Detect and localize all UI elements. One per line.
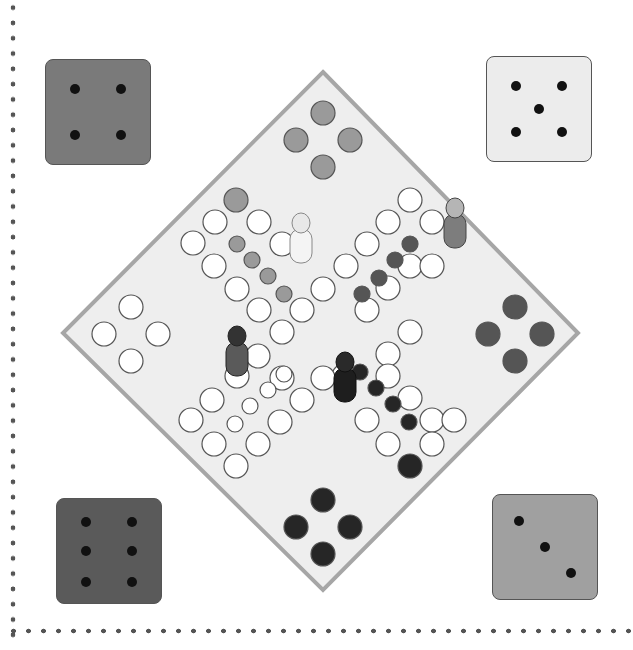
track-space[interactable]	[334, 254, 358, 278]
home-space-bottom[interactable]	[311, 542, 335, 566]
home-path-right[interactable]	[387, 252, 403, 268]
home-space-bottom[interactable]	[338, 515, 362, 539]
piece-striped-figure[interactable]	[444, 198, 466, 248]
track-space[interactable]	[420, 254, 444, 278]
home-space-top[interactable]	[284, 128, 308, 152]
home-space-left[interactable]	[146, 322, 170, 346]
game-board	[0, 0, 633, 650]
track-space[interactable]	[290, 298, 314, 322]
home-space-top[interactable]	[338, 128, 362, 152]
track-space[interactable]	[246, 432, 270, 456]
home-space-top[interactable]	[311, 155, 335, 179]
home-path-bottom[interactable]	[385, 396, 401, 412]
home-path-top[interactable]	[260, 268, 276, 284]
track-space[interactable]	[376, 432, 400, 456]
track-space[interactable]	[247, 298, 271, 322]
home-space-left[interactable]	[119, 349, 143, 373]
home-space-right[interactable]	[503, 349, 527, 373]
track-space[interactable]	[290, 388, 314, 412]
track-space[interactable]	[376, 342, 400, 366]
home-path-top[interactable]	[229, 236, 245, 252]
home-space-right[interactable]	[503, 295, 527, 319]
home-path-right[interactable]	[354, 286, 370, 302]
piece-light-figure-dotted-dress[interactable]	[290, 213, 312, 263]
home-path-left[interactable]	[227, 416, 243, 432]
home-path-bottom[interactable]	[401, 414, 417, 430]
track-space[interactable]	[442, 408, 466, 432]
track-space[interactable]	[420, 408, 444, 432]
track-space[interactable]	[376, 210, 400, 234]
track-space[interactable]	[398, 386, 422, 410]
home-path-right[interactable]	[402, 236, 418, 252]
track-space[interactable]	[181, 231, 205, 255]
home-path-bottom[interactable]	[368, 380, 384, 396]
home-space-right[interactable]	[530, 322, 554, 346]
track-space[interactable]	[311, 366, 335, 390]
home-space-right[interactable]	[476, 322, 500, 346]
track-space[interactable]	[420, 210, 444, 234]
piece-black-figure-tie[interactable]	[334, 352, 356, 402]
track-space[interactable]	[224, 454, 248, 478]
home-space-bottom[interactable]	[284, 515, 308, 539]
track-space[interactable]	[200, 388, 224, 412]
start-space-top[interactable]	[224, 188, 248, 212]
track-space[interactable]	[355, 232, 379, 256]
track-space[interactable]	[203, 210, 227, 234]
home-space-left[interactable]	[92, 322, 116, 346]
home-path-top[interactable]	[244, 252, 260, 268]
track-space[interactable]	[246, 344, 270, 368]
track-space[interactable]	[225, 277, 249, 301]
piece-dark-figure-hat[interactable]	[226, 326, 248, 376]
home-path-left[interactable]	[260, 382, 276, 398]
track-space[interactable]	[398, 320, 422, 344]
start-space-bottom[interactable]	[398, 454, 422, 478]
home-space-left[interactable]	[119, 295, 143, 319]
home-path-top[interactable]	[276, 286, 292, 302]
track-space[interactable]	[202, 254, 226, 278]
track-space[interactable]	[247, 210, 271, 234]
home-space-bottom[interactable]	[311, 488, 335, 512]
track-space[interactable]	[268, 410, 292, 434]
track-space[interactable]	[179, 408, 203, 432]
home-path-left[interactable]	[242, 398, 258, 414]
home-path-left[interactable]	[276, 366, 292, 382]
track-space[interactable]	[355, 408, 379, 432]
home-path-right[interactable]	[371, 270, 387, 286]
track-space[interactable]	[311, 277, 335, 301]
track-space[interactable]	[202, 432, 226, 456]
track-space[interactable]	[398, 188, 422, 212]
home-space-top[interactable]	[311, 101, 335, 125]
track-space[interactable]	[420, 432, 444, 456]
track-space[interactable]	[270, 320, 294, 344]
